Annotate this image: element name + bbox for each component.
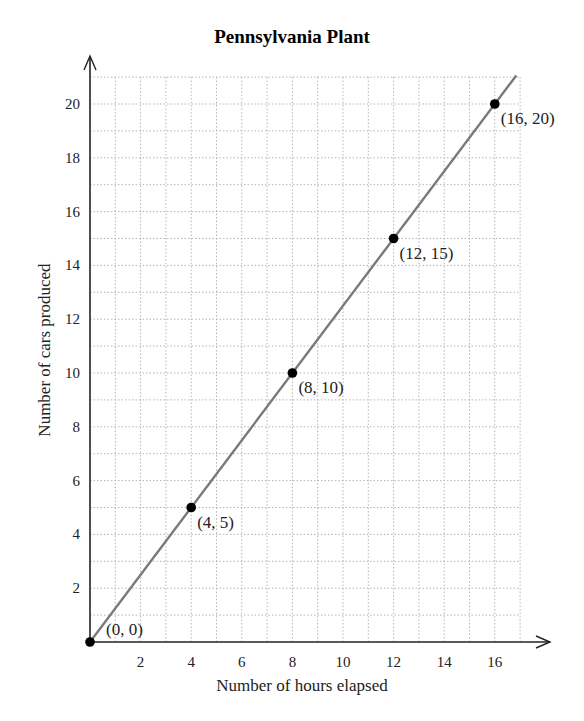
y-tick-label: 10 — [65, 365, 80, 381]
data-point — [85, 637, 95, 647]
data-point-label: (12, 15) — [400, 244, 454, 263]
y-tick-label: 20 — [65, 96, 80, 112]
axes — [84, 56, 550, 648]
y-tick-label: 18 — [65, 150, 80, 166]
x-tick-label: 14 — [437, 654, 453, 670]
data-line — [90, 75, 516, 642]
y-tick-label: 8 — [73, 419, 81, 435]
y-axis-label: Number of cars produced — [35, 263, 54, 437]
x-axis-label: Number of hours elapsed — [216, 676, 388, 695]
y-tick-label: 2 — [73, 580, 81, 596]
x-tick-label: 4 — [187, 654, 195, 670]
data-point-label: (8, 10) — [298, 378, 343, 397]
y-tick-label: 4 — [73, 526, 81, 542]
x-tick-label: 6 — [238, 654, 246, 670]
data-point — [186, 503, 196, 513]
x-tick-label: 10 — [336, 654, 351, 670]
y-tick-label: 14 — [65, 257, 81, 273]
data-point — [490, 99, 500, 109]
data-point-label: (4, 5) — [197, 513, 234, 532]
data-points: (0, 0)(4, 5)(8, 10)(12, 15)(16, 20) — [85, 99, 554, 647]
y-tick-label: 16 — [65, 204, 81, 220]
data-point — [288, 368, 298, 378]
data-point — [389, 234, 399, 244]
x-tick-label: 8 — [289, 654, 297, 670]
x-tick-label: 12 — [386, 654, 401, 670]
x-tick-label: 16 — [487, 654, 503, 670]
y-tick-label: 12 — [65, 311, 80, 327]
chart-title: Pennsylvania Plant — [214, 26, 370, 47]
data-point-label: (0, 0) — [106, 620, 143, 639]
data-point-label: (16, 20) — [501, 109, 555, 128]
y-tick-label: 6 — [73, 473, 81, 489]
chart: 2468101214162468101214161820 (0, 0)(4, 5… — [0, 0, 584, 721]
x-tick-label: 2 — [137, 654, 145, 670]
